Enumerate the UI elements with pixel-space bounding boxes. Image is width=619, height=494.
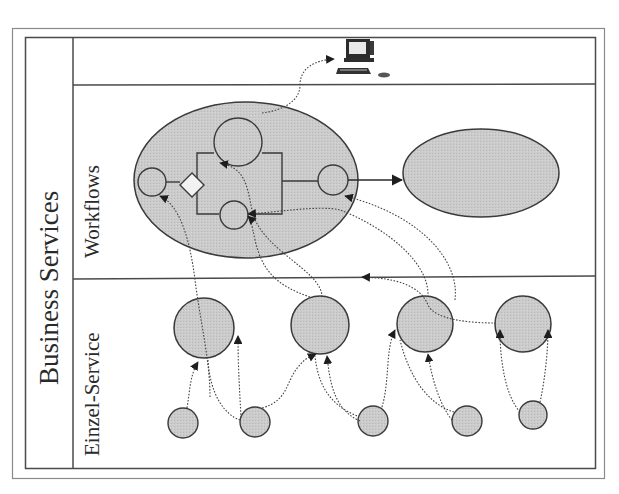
diagram-title: Business Services bbox=[34, 191, 65, 385]
workflow-upper-circle bbox=[214, 118, 262, 166]
lane-label-workflows: Workflows bbox=[80, 165, 105, 258]
workflow-process-ellipse bbox=[134, 102, 358, 258]
workflow-start-circle bbox=[138, 168, 166, 196]
workflow-end-circle bbox=[318, 165, 348, 195]
einzel-service-small-circles bbox=[168, 401, 547, 438]
inner-frame bbox=[26, 37, 596, 469]
diagram-canvas: Business Services Workflows Einzel-Servi… bbox=[0, 0, 619, 494]
computer-workstation-icon bbox=[336, 39, 390, 78]
workflow-lower-circle bbox=[220, 201, 248, 229]
einzel-service-large-circles bbox=[174, 296, 551, 358]
lane-label-einzel-service: Einzel-Service bbox=[80, 332, 105, 456]
second-workflow-ellipse bbox=[403, 129, 559, 217]
